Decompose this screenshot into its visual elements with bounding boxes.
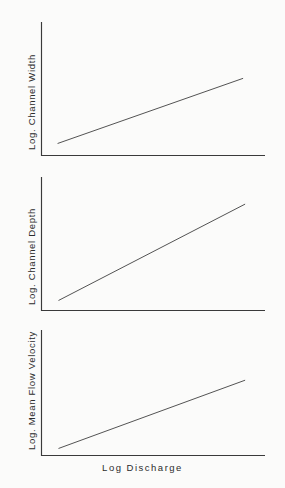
chart-panel-mean-flow-velocity: Log. Mean Flow Velocity [0, 320, 285, 460]
axis-lines-mean-flow-velocity [42, 330, 266, 456]
y-axis-label-channel-depth: Log. Channel Depth [26, 208, 37, 305]
plot-area-mean-flow-velocity [0, 320, 285, 460]
trend-line-channel-depth [58, 204, 245, 300]
axis-lines-channel-width [42, 22, 266, 156]
trend-line-mean-flow-velocity [58, 380, 245, 448]
figure-root: Log. Channel Width Log. Channel Depth Lo… [0, 0, 285, 488]
chart-panel-channel-depth: Log. Channel Depth [0, 165, 285, 320]
plot-area-channel-width [0, 0, 285, 165]
y-axis-label-channel-width: Log. Channel Width [26, 54, 37, 150]
y-axis-label-mean-flow-velocity: Log. Mean Flow Velocity [26, 331, 37, 450]
axis-lines-channel-depth [42, 177, 266, 311]
chart-panel-channel-width: Log. Channel Width [0, 0, 285, 165]
plot-area-channel-depth [0, 165, 285, 320]
x-axis-label: Log Discharge [0, 462, 285, 473]
trend-line-channel-width [58, 78, 244, 143]
